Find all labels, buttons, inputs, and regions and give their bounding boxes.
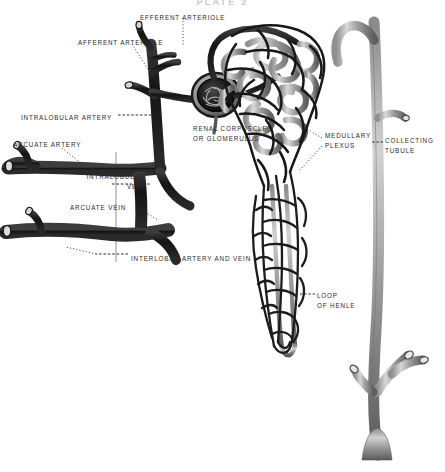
label-arcuate-vein: ARCUATE VEIN: [70, 203, 126, 213]
label-arcuate-artery: ARCUATE ARTERY: [13, 140, 81, 150]
medullary-plexus-network: [253, 172, 307, 353]
collecting-tubule-tree: [336, 22, 429, 460]
label-loop-of-henle: LOOP OF HENLE: [317, 291, 355, 310]
label-intralobular-vein: INTRALOBULAR VEIN: [61, 172, 145, 191]
label-medullary-plexus: MEDULLARY PLEXUS: [325, 131, 371, 150]
intralobular-vein-vessel: [139, 172, 190, 228]
label-intralobular-artery: INTRALOBULAR ARTERY: [21, 113, 112, 123]
anatomical-plate: PLATE 2: [0, 0, 445, 472]
arcuate-vein-vessel: [3, 206, 176, 260]
nephron-blood-supply-figure: [0, 0, 445, 472]
label-afferent-arteriole: AFFERENT ARTERIOLE: [78, 38, 163, 48]
label-interlobar-artery-and-vein: INTERLOBAR ARTERY AND VEIN: [131, 254, 251, 264]
label-renal-corpuscle: RENAL CORPUSCLE OR GLOMERULUS: [193, 124, 267, 143]
label-efferent-arteriole: EFFERENT ARTERIOLE: [140, 13, 225, 23]
label-collecting-tubule: COLLECTING TUBULE: [385, 136, 434, 155]
